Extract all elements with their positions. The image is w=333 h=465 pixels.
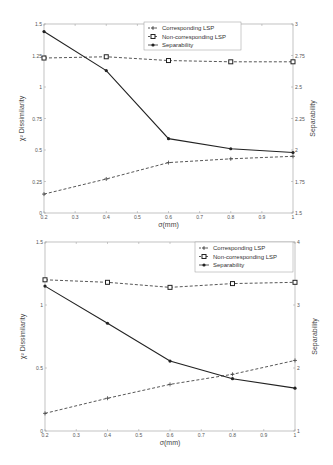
y2-tick-label: 2.75 <box>295 53 305 59</box>
x-tick-label: 0.9 <box>260 432 267 438</box>
legend: Corresponding LSPNon-corresponding LSPSe… <box>144 22 241 50</box>
x-tick-label: 0.4 <box>104 432 111 438</box>
x-tick-label: 0.6 <box>165 214 172 220</box>
y2-tick-label: 2.25 <box>295 116 305 122</box>
y-tick-label: 1.5 <box>35 21 42 27</box>
y-tick-label: 1.5 <box>36 239 43 245</box>
dot-marker <box>293 387 296 390</box>
y-tick-label: 0 <box>40 428 43 434</box>
square-marker <box>167 59 171 63</box>
square-marker <box>229 60 233 64</box>
y-tick-label: 0 <box>39 210 42 216</box>
y-tick-label: 0.25 <box>32 179 42 185</box>
x-tick-label: 0.6 <box>167 432 174 438</box>
y-tick-label: 0.5 <box>35 147 42 153</box>
y2-tick-label: 2 <box>295 147 298 153</box>
dot-marker <box>231 377 234 380</box>
series-corresponding-lsp <box>42 154 295 196</box>
legend-entry: Separability <box>162 42 193 48</box>
dot-marker <box>229 147 232 150</box>
square-marker <box>293 280 297 284</box>
y2-axis-label: Separability <box>309 100 317 137</box>
y2-tick-label: 2 <box>297 365 300 371</box>
chart-2: 0.20.30.40.50.60.70.80.9100.511.51234σ(m… <box>19 239 319 447</box>
plus-marker <box>167 161 171 165</box>
legend-entry: Non-corresponding LSP <box>162 34 226 40</box>
plus-marker <box>106 396 110 400</box>
plus-marker <box>42 192 46 196</box>
square-marker <box>42 56 46 60</box>
series-separability <box>43 285 296 390</box>
dot-marker <box>202 263 205 266</box>
y2-tick-label: 1 <box>297 428 300 434</box>
dot-marker <box>151 43 154 46</box>
y2-tick-label: 4 <box>297 239 300 245</box>
plus-marker <box>231 372 235 376</box>
y2-tick-label: 1.5 <box>295 210 302 216</box>
series-non-corresponding-lsp <box>42 55 295 64</box>
figure: 0.20.30.40.50.60.70.80.9100.250.50.7511.… <box>0 0 333 465</box>
y2-tick-label: 2.5 <box>295 84 302 90</box>
x-tick-label: 0.3 <box>73 432 80 438</box>
y-tick-label: 1 <box>40 302 43 308</box>
legend-entry: Separability <box>213 262 244 268</box>
dot-marker <box>43 285 46 288</box>
x-tick-label: 0.3 <box>72 214 79 220</box>
plus-marker <box>43 411 47 415</box>
x-tick-label: 0.7 <box>198 432 205 438</box>
x-tick-label: 0.7 <box>196 214 203 220</box>
series-corresponding-lsp <box>43 358 297 415</box>
y-tick-label: 0.5 <box>36 365 43 371</box>
x-tick-label: 0.5 <box>135 432 142 438</box>
x-tick-label: 0.4 <box>103 214 110 220</box>
plus-marker <box>168 382 172 386</box>
square-marker <box>231 282 235 286</box>
series-non-corresponding-lsp <box>43 278 297 290</box>
dot-marker <box>167 137 170 140</box>
square-marker <box>104 55 108 59</box>
y2-axis-label: Separability <box>311 318 319 355</box>
legend-entry: Corresponding LSP <box>213 245 265 251</box>
plot-area <box>44 24 293 213</box>
x-tick-label: 0.8 <box>229 432 236 438</box>
dot-marker <box>105 69 108 72</box>
plus-marker <box>104 177 108 181</box>
y2-tick-label: 3 <box>297 302 300 308</box>
square-marker <box>151 35 155 39</box>
plus-marker <box>229 157 233 161</box>
y-tick-label: 0.75 <box>32 116 42 122</box>
x-tick-label: 0.9 <box>258 214 265 220</box>
plus-marker <box>293 358 297 362</box>
x-tick-label: 0.5 <box>134 214 141 220</box>
square-marker <box>106 280 110 284</box>
legend: Corresponding LSPNon-corresponding LSPSe… <box>195 242 293 272</box>
x-tick-label: 0.8 <box>227 214 234 220</box>
dot-marker <box>106 322 109 325</box>
dot-marker <box>42 30 45 33</box>
x-axis-label: σ(mm) <box>158 221 179 229</box>
dot-marker <box>291 151 294 154</box>
legend-entry: Corresponding LSP <box>162 25 214 31</box>
y2-tick-label: 1.75 <box>295 179 305 185</box>
legend-entry: Non-corresponding LSP <box>213 254 277 260</box>
y2-tick-label: 3 <box>295 21 298 27</box>
square-marker <box>291 60 295 64</box>
plus-marker <box>291 154 295 158</box>
square-marker <box>202 255 206 259</box>
chart-1: 0.20.30.40.50.60.70.80.9100.250.50.7511.… <box>18 21 317 229</box>
square-marker <box>168 285 172 289</box>
y-axis-label: χ² Dissimilarity <box>19 313 27 359</box>
y-tick-label: 1 <box>39 84 42 90</box>
x-axis-label: σ(mm) <box>160 439 181 447</box>
dot-marker <box>168 359 171 362</box>
square-marker <box>43 278 47 282</box>
y-tick-label: 1.25 <box>32 53 42 59</box>
y-axis-label: χ² Dissimilarity <box>18 95 26 141</box>
